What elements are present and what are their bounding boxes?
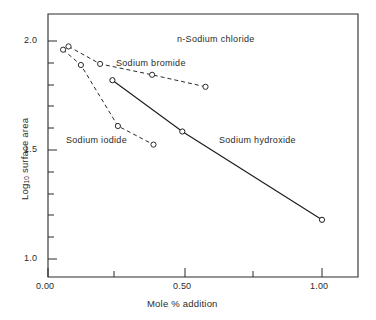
chart-canvas xyxy=(0,0,376,320)
annotation-sodium-hydroxide: Sodium hydroxide xyxy=(219,135,296,145)
data-point xyxy=(319,217,324,222)
data-point xyxy=(115,123,120,128)
data-point xyxy=(98,61,103,66)
x-axis-title: Mole % addition xyxy=(147,298,218,309)
annotation-sodium-chloride: n-Sodium chloride xyxy=(177,34,255,44)
data-point xyxy=(66,44,71,49)
x-tick-label-0-50: 0.50 xyxy=(173,281,191,291)
data-point xyxy=(180,129,185,134)
y-axis-title-base: Log xyxy=(19,184,30,200)
y-axis-title: Log10 surface area xyxy=(19,118,30,200)
y-tick-label-2-0: 2.0 xyxy=(24,35,37,45)
axis-frame xyxy=(48,14,358,277)
data-point xyxy=(151,142,156,147)
data-point xyxy=(110,78,115,83)
series-sodium-hydroxide xyxy=(110,78,325,223)
data-point xyxy=(61,47,66,52)
y-axis-title-subscript: 10 xyxy=(23,176,30,184)
x-axis-title-text: Mole % addition xyxy=(147,298,218,309)
figure-container: 2.0 1.5 1.0 0.00 0.50 1.00 Mole % additi… xyxy=(0,0,376,320)
series-sodium-hydroxide-line xyxy=(112,80,322,220)
data-point xyxy=(78,62,83,67)
x-axis-ticks xyxy=(48,268,322,277)
annotation-sodium-iodide: Sodium iodide xyxy=(66,135,127,145)
data-point xyxy=(150,72,155,77)
y-tick-label-1-0: 1.0 xyxy=(24,253,37,263)
y-axis-ticks xyxy=(48,41,57,259)
data-point xyxy=(203,84,208,89)
annotation-sodium-bromide: Sodium bromide xyxy=(116,58,186,68)
x-tick-label-0-00: 0.00 xyxy=(36,281,54,291)
y-axis-title-rest: surface area xyxy=(19,118,30,176)
x-tick-label-1-00: 1.00 xyxy=(310,281,328,291)
